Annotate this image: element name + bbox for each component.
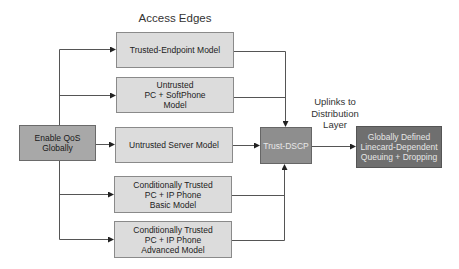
conditionally-trusted-basic-model-node: Conditionally Trusted PC + IP Phone Basi… xyxy=(114,176,232,213)
untrusted-server-model-node: Untrusted Server Model xyxy=(115,127,233,163)
queuing-dropping-node: Globally Defined Linecard-Dependent Queu… xyxy=(356,126,442,168)
model-label: Conditionally Trusted PC + IP Phone Basi… xyxy=(133,180,212,210)
model-label: Conditionally Trusted PC + IP Phone Adva… xyxy=(133,225,212,255)
model-label: Untrusted Server Model xyxy=(129,140,219,150)
model-label: Untrusted PC + SoftPhone Model xyxy=(144,80,205,110)
enable-qos-node: Enable QoS Globally xyxy=(19,125,96,161)
untrusted-softphone-model-node: Untrusted PC + SoftPhone Model xyxy=(116,77,234,113)
queuing-label: Globally Defined Linecard-Dependent Queu… xyxy=(360,132,437,162)
trust-dscp-node: Trust-DSCP xyxy=(260,127,312,164)
trusted-endpoint-model-node: Trusted-Endpoint Model xyxy=(116,32,234,68)
model-label: Trusted-Endpoint Model xyxy=(130,45,220,55)
conditionally-trusted-advanced-model-node: Conditionally Trusted PC + IP Phone Adva… xyxy=(114,221,232,258)
enable-qos-label: Enable QoS Globally xyxy=(20,133,95,153)
diagram-title: Access Edges xyxy=(120,12,230,24)
trust-dscp-label: Trust-DSCP xyxy=(263,141,309,151)
